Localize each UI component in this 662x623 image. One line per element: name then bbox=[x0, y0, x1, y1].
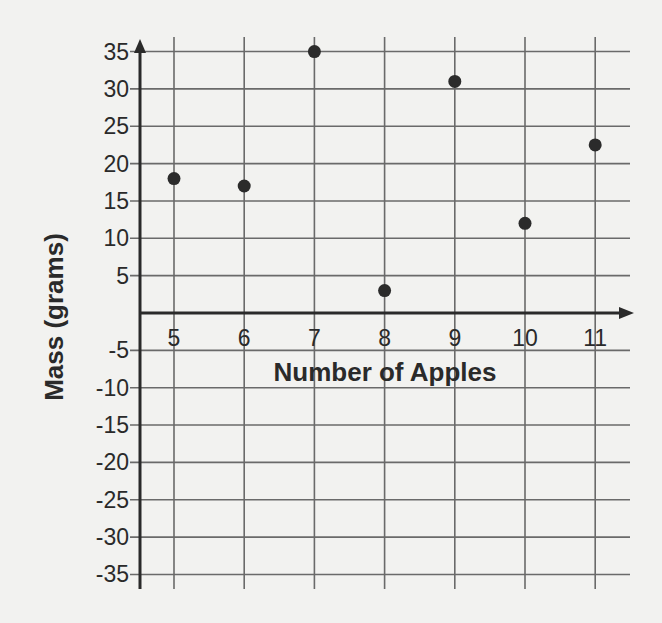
y-tick-label: 35 bbox=[103, 39, 129, 65]
x-tick-label: 6 bbox=[238, 325, 251, 351]
y-tick-label: 10 bbox=[103, 225, 129, 251]
y-tick-label: 15 bbox=[103, 188, 129, 214]
y-axis-arrow-icon bbox=[134, 39, 146, 53]
scatter-chart: 3530252015105-5-10-15-20-25-30-355678910… bbox=[0, 0, 662, 623]
x-axis-arrow-icon bbox=[619, 307, 634, 319]
data-point bbox=[519, 217, 532, 230]
y-tick-label: -20 bbox=[96, 449, 129, 475]
data-point bbox=[378, 284, 391, 297]
y-tick-label: -15 bbox=[96, 412, 129, 438]
y-tick-label: -10 bbox=[96, 375, 129, 401]
y-tick-label: 25 bbox=[103, 113, 129, 139]
data-point bbox=[168, 172, 181, 185]
x-tick-label: 5 bbox=[168, 325, 181, 351]
data-point bbox=[238, 180, 251, 193]
data-point bbox=[308, 45, 321, 58]
x-tick-label: 8 bbox=[378, 325, 391, 351]
chart-canvas: 3530252015105-5-10-15-20-25-30-355678910… bbox=[0, 0, 662, 623]
y-tick-label: 30 bbox=[103, 76, 129, 102]
y-tick-label: -30 bbox=[96, 524, 129, 550]
x-tick-label: 11 bbox=[583, 325, 607, 351]
y-tick-label: 20 bbox=[103, 151, 129, 177]
y-axis-title: Mass (grams) bbox=[39, 233, 69, 401]
x-axis-title: Number of Apples bbox=[274, 357, 497, 387]
data-point bbox=[448, 75, 461, 88]
x-tick-label: 7 bbox=[308, 325, 321, 351]
y-tick-label: -25 bbox=[96, 487, 129, 513]
y-tick-label: -35 bbox=[96, 561, 129, 587]
y-tick-label: 5 bbox=[116, 263, 129, 289]
y-tick-label: -5 bbox=[109, 337, 129, 363]
x-tick-label: 9 bbox=[448, 325, 461, 351]
data-point bbox=[589, 138, 602, 151]
x-tick-label: 10 bbox=[512, 325, 538, 351]
